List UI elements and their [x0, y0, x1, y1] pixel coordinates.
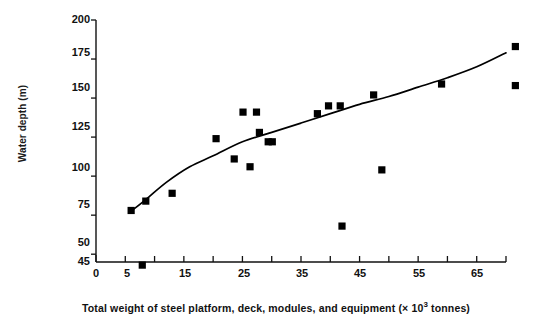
- y-tick-label: 75: [78, 199, 90, 210]
- x-tick-label: 55: [406, 268, 432, 279]
- x-tick-label: 65: [464, 268, 490, 279]
- x-tick-label: 25: [231, 268, 257, 279]
- data-point-marker: [239, 109, 246, 116]
- x-tick-label: 5: [114, 268, 140, 279]
- data-point-marker: [370, 91, 377, 98]
- y-tick-label: 125: [72, 121, 90, 132]
- x-tick-label: 0: [83, 268, 109, 279]
- data-point-marker: [246, 163, 253, 170]
- data-point-marker: [338, 222, 345, 229]
- x-tick-labels: 0 5 15 25 35 45 55 65: [0, 268, 552, 284]
- data-point-marker: [378, 166, 385, 173]
- data-point-marker: [169, 190, 176, 197]
- data-point-marker: [337, 102, 344, 109]
- data-points: [128, 43, 519, 269]
- data-point-marker: [128, 207, 135, 214]
- data-point-marker: [269, 138, 276, 145]
- data-point-marker: [438, 80, 445, 87]
- y-tick-label: 100: [72, 162, 90, 173]
- x-axis-label-prefix: Total weight of steel platform, deck, mo…: [82, 302, 423, 314]
- x-tick-label: 15: [172, 268, 198, 279]
- data-point-marker: [212, 135, 219, 142]
- x-tick-label: 45: [347, 268, 373, 279]
- y-tick-label: 50: [78, 237, 90, 248]
- data-point-marker: [314, 110, 321, 117]
- y-axis-ticks: [91, 20, 96, 254]
- y-axis-label: Water depth (m): [17, 64, 28, 184]
- x-tick-label: 35: [289, 268, 315, 279]
- axes: [91, 20, 506, 262]
- y-tick-label: 175: [72, 47, 90, 58]
- y-tick-label: 45: [78, 256, 90, 267]
- trend-line: [130, 53, 506, 212]
- data-point-marker: [512, 82, 519, 89]
- y-tick-label: 200: [72, 14, 90, 25]
- x-axis-ticks: [96, 255, 506, 262]
- data-point-marker: [512, 43, 519, 50]
- data-point-marker: [253, 109, 260, 116]
- data-point-marker: [142, 198, 149, 205]
- data-point-marker: [231, 155, 238, 162]
- x-axis-label: Total weight of steel platform, deck, mo…: [0, 300, 552, 314]
- data-point-marker: [325, 102, 332, 109]
- data-point-marker: [256, 129, 263, 136]
- y-tick-label: 150: [72, 82, 90, 93]
- chart-figure: Water depth (m) 200 175 150 125 100 75 5…: [0, 0, 552, 324]
- x-axis-label-suffix: tonnes): [428, 302, 470, 314]
